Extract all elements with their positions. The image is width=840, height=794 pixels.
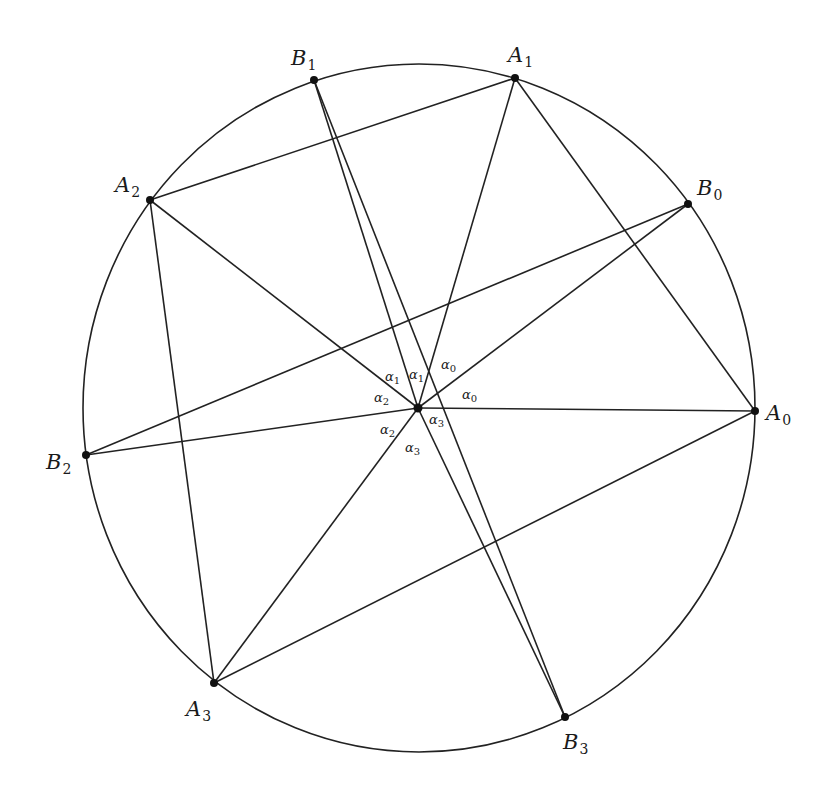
angle-labels: α0α0α1α1α2α2α3α3 xyxy=(374,357,477,457)
angle-label-alpha0: α0 xyxy=(462,387,477,404)
angle-label-alpha3: α3 xyxy=(405,440,420,457)
point-label-b0: B0 xyxy=(696,176,722,203)
segment-b1-b3 xyxy=(314,80,565,717)
point-label-b3: B3 xyxy=(562,730,588,757)
point-label-b1: B1 xyxy=(290,46,316,73)
chord-segments xyxy=(86,78,755,717)
point-label-b2: B2 xyxy=(45,450,71,477)
segment-b1-o xyxy=(314,80,418,408)
segment-b3-o xyxy=(418,408,565,717)
angle-label-alpha2: α2 xyxy=(380,422,395,439)
center-point-dot xyxy=(414,404,423,413)
point-dot-a1 xyxy=(511,74,519,82)
point-dot-a0 xyxy=(751,407,759,415)
point-dot-b3 xyxy=(561,713,569,721)
angle-label-alpha1: α1 xyxy=(385,369,400,386)
segment-b0-b2 xyxy=(86,204,688,455)
segment-a1-o xyxy=(418,78,515,408)
point-dot-a3 xyxy=(210,679,218,687)
point-dot-a2 xyxy=(146,196,154,204)
angle-label-alpha1: α1 xyxy=(409,367,424,384)
angle-label-alpha2: α2 xyxy=(374,390,389,407)
angle-label-alpha0: α0 xyxy=(441,357,456,374)
segment-b0-o xyxy=(418,204,688,408)
angle-label-alpha3: α3 xyxy=(429,412,444,429)
segment-a2-o xyxy=(150,200,418,408)
segment-b2-o xyxy=(86,408,418,455)
point-label-a0: A0 xyxy=(764,401,791,428)
point-label-a2: A2 xyxy=(113,173,140,200)
point-label-a3: A3 xyxy=(184,697,211,724)
labeled-points: A0A1A2A3B0B1B2B3 xyxy=(45,43,791,757)
point-dot-b2 xyxy=(82,451,90,459)
point-dot-b1 xyxy=(310,76,318,84)
segment-a3-o xyxy=(214,408,418,683)
point-label-a1: A1 xyxy=(506,43,533,70)
point-dot-b0 xyxy=(684,200,692,208)
segment-a0-o xyxy=(418,408,755,411)
geometry-diagram: A0A1A2A3B0B1B2B3 α0α0α1α1α2α2α3α3 xyxy=(0,0,840,794)
